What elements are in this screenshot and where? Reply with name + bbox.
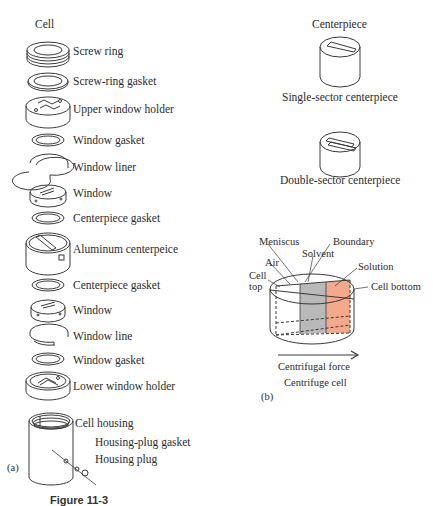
part-label-window: Window: [73, 188, 112, 200]
part-label-lower-window-holder: Lower window holder: [73, 381, 175, 393]
double-sector-centerpiece-icon: [320, 132, 360, 177]
centerpiece-gasket-icon: [32, 279, 64, 291]
part-label-screw-ring-gasket: Screw-ring gasket: [73, 76, 156, 88]
centrifuge-cell-icon: [268, 244, 368, 359]
part-label-cell-housing: Cell housing: [75, 418, 133, 430]
centerpiece-title: Centerpiece: [312, 19, 367, 31]
solvent-label: Solvent: [302, 249, 334, 260]
aluminum-centerpiece-icon: [26, 233, 70, 275]
lower-window-holder-icon: [26, 372, 70, 400]
boundary-label: Boundary: [333, 237, 374, 248]
window-gasket-icon: [32, 353, 64, 365]
part-label-centerpiece-gasket-2: Centerpiece gasket: [73, 280, 160, 292]
window-icon: [30, 185, 66, 207]
upper-window-holder-icon: [26, 97, 70, 128]
window-gasket-icon: [32, 134, 64, 146]
screw-ring-icon: [27, 42, 69, 67]
centerpiece-gasket-icon: [32, 212, 64, 224]
part-label-centerpiece-gasket: Centerpiece gasket: [73, 213, 160, 225]
single-sector-centerpiece-icon: [320, 37, 360, 87]
part-label-aluminum-centerpiece: Aluminum centerpeice: [73, 244, 178, 256]
panel-b-tag: (b): [261, 392, 273, 403]
meniscus-label: Meniscus: [259, 237, 299, 248]
part-label-window-gasket-2: Window gasket: [73, 355, 144, 367]
window-icon: [31, 300, 65, 322]
part-label-window-line: Window line: [73, 331, 132, 343]
part-label-window-gasket: Window gasket: [73, 135, 144, 147]
cell-bottom-label: Cell bottom: [371, 282, 421, 293]
part-label-screw-ring: Screw ring: [73, 46, 123, 58]
part-label-upper-window-holder: Upper window holder: [73, 104, 174, 116]
double-sector-label: Double-sector centerpiece: [280, 175, 400, 187]
air-label: Air: [265, 258, 279, 269]
solution-label: Solution: [358, 262, 394, 273]
cell-top-label-line1: Cell: [249, 271, 267, 282]
figure-drawing: [0, 0, 443, 506]
panel-a-title: Cell: [35, 19, 54, 31]
centrifugal-force-label: Centrifugal force: [278, 362, 350, 373]
part-label-housing-plug-gasket: Housing-plug gasket: [95, 437, 191, 449]
part-label-window-liner: Window liner: [73, 162, 136, 174]
panel-a-tag: (a): [7, 463, 19, 474]
single-sector-label: Single-sector centerpiece: [282, 92, 398, 104]
window-liner-icon: [30, 324, 68, 346]
window-liner-icon: [12, 154, 73, 190]
figure-caption: Figure 11-3: [50, 494, 108, 506]
cell-top-label-line2: top: [249, 282, 262, 293]
centrifuge-cell-label: Centrifuge cell: [284, 378, 347, 389]
screw-ring-gasket-icon: [28, 73, 68, 91]
part-label-housing-plug: Housing plug: [95, 454, 157, 466]
part-label-window-2: Window: [73, 305, 112, 317]
